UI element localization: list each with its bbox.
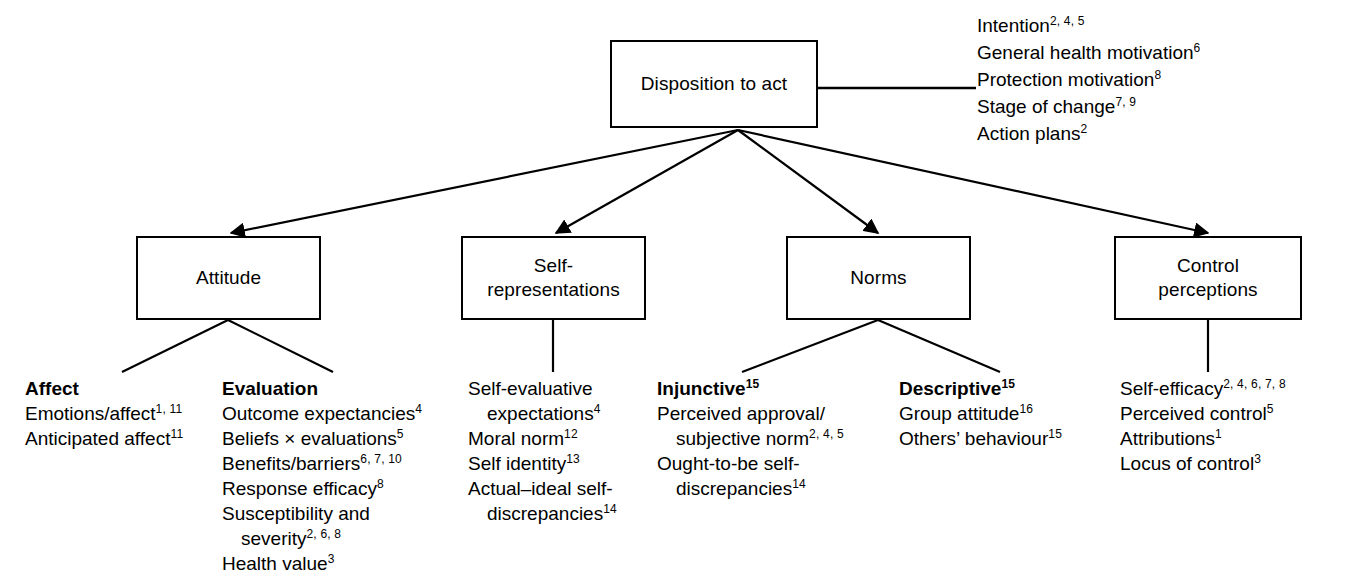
list-item-superscript: 5 (1267, 402, 1274, 416)
column-heading-superscript: 15 (1001, 377, 1015, 391)
annotation-superscript: 6 (1194, 41, 1201, 55)
list-item: Self identity13 (468, 451, 617, 476)
list-item-superscript: 11 (170, 427, 183, 441)
list-item: Perceived approval/ (657, 401, 844, 426)
list-item-text: Susceptibility and (222, 503, 370, 524)
annotation-text: General health motivation (977, 42, 1194, 63)
list-item-superscript: 1 (1215, 427, 1222, 441)
list-item-text: Self identity (468, 453, 566, 474)
list-item: Attributions1 (1120, 426, 1286, 451)
list-item-text: Perceived approval/ (657, 403, 825, 424)
list-item-superscript: 3 (328, 552, 335, 566)
list-item-superscript: 12 (564, 427, 578, 441)
column-heading-text: Affect (25, 378, 79, 399)
list-item-superscript: 15 (1048, 427, 1062, 441)
annotation-text: Protection motivation (977, 69, 1154, 90)
list-item-superscript: 14 (603, 502, 617, 516)
box-self-representations-label: Self- representations (487, 254, 619, 302)
box-disposition-to-act[interactable]: Disposition to act (610, 40, 818, 128)
arrow-to-norms (738, 130, 878, 233)
list-item-text: Self-efficacy (1120, 378, 1223, 399)
box-self-representations[interactable]: Self- representations (461, 236, 646, 320)
column-heading-text: Injunctive (657, 378, 746, 399)
annotation-item: Stage of change7, 9 (977, 93, 1200, 120)
list-item-superscript: 2, 6, 8 (306, 527, 341, 541)
list-item-text: Attributions (1120, 428, 1215, 449)
list-item-text: Benefits/barriers (222, 453, 360, 474)
box-norms[interactable]: Norms (786, 236, 971, 320)
list-item-text: subjective norm (676, 428, 809, 449)
diagram-canvas: Disposition to act Intention2, 4, 5 Gene… (0, 0, 1347, 584)
annotation-item: Action plans2 (977, 120, 1200, 147)
list-item-superscript: 2, 4, 5 (809, 427, 844, 441)
box-norms-label: Norms (850, 266, 906, 290)
list-item: Ought-to-be self- (657, 451, 844, 476)
list-item: severity2, 6, 8 (222, 526, 422, 551)
list-item-superscript: 4 (415, 402, 422, 416)
list-item-text: Actual–ideal self- (468, 478, 613, 499)
list-item: Locus of control3 (1120, 451, 1286, 476)
list-item-text: Anticipated affect (25, 428, 170, 449)
list-item-superscript: 6, 7, 10 (360, 452, 402, 466)
annotation-superscript: 7, 9 (1115, 95, 1136, 109)
list-item-text: Self-evaluative (468, 378, 593, 399)
list-item: Emotions/affect1, 11 (25, 401, 183, 426)
list-item: Health value3 (222, 551, 422, 576)
annotation-text: Action plans (977, 123, 1081, 144)
annotation-superscript: 8 (1154, 68, 1161, 82)
list-item-superscript: 8 (377, 477, 384, 491)
list-item: discrepancies14 (468, 501, 617, 526)
list-item-text: Beliefs × evaluations (222, 428, 397, 449)
list-item-superscript: 14 (792, 477, 806, 491)
column-heading: Descriptive15 (899, 376, 1062, 401)
list-item-text: Outcome expectancies (222, 403, 415, 424)
list-item-superscript: 5 (397, 427, 404, 441)
list-item: Actual–ideal self- (468, 476, 617, 501)
column-heading-text: Descriptive (899, 378, 1001, 399)
column-control-perceptions-details: Self-efficacy2, 4, 6, 7, 8 Perceived con… (1120, 376, 1286, 476)
list-item-text: discrepancies (676, 478, 792, 499)
list-item: Others’ behaviour15 (899, 426, 1062, 451)
list-item: discrepancies14 (657, 476, 844, 501)
list-item: Moral norm12 (468, 426, 617, 451)
norms-branch-left (742, 320, 878, 372)
box-disposition-to-act-label: Disposition to act (641, 72, 787, 96)
list-item: expectations4 (468, 401, 617, 426)
list-item: Beliefs × evaluations5 (222, 426, 422, 451)
annotation-superscript: 2 (1081, 122, 1088, 136)
list-item-text: Moral norm (468, 428, 564, 449)
annotation-item: Intention2, 4, 5 (977, 12, 1200, 39)
list-item-text: Emotions/affect (25, 403, 156, 424)
list-item: subjective norm2, 4, 5 (657, 426, 844, 451)
attitude-branch-left (122, 320, 228, 372)
box-attitude[interactable]: Attitude (136, 236, 321, 320)
list-item-superscript: 1, 11 (156, 402, 183, 416)
list-item-text: Health value (222, 553, 328, 574)
column-heading-superscript: 15 (746, 377, 760, 391)
box-control-perceptions[interactable]: Control perceptions (1114, 236, 1302, 320)
column-injunctive: Injunctive15 Perceived approval/ subject… (657, 376, 844, 501)
box-control-perceptions-label: Control perceptions (1158, 254, 1257, 302)
annotation-item: General health motivation6 (977, 39, 1200, 66)
arrow-to-attitude (231, 130, 738, 233)
list-item: Self-evaluative (468, 376, 617, 401)
list-item-superscript: 16 (1019, 402, 1033, 416)
list-item: Benefits/barriers6, 7, 10 (222, 451, 422, 476)
column-heading-text: Evaluation (222, 378, 318, 399)
list-item-text: expectations (487, 403, 594, 424)
list-item-text: severity (241, 528, 306, 549)
list-item: Response efficacy8 (222, 476, 422, 501)
annotation-text: Stage of change (977, 96, 1115, 117)
annotation-superscript: 2, 4, 5 (1050, 14, 1085, 28)
list-item: Susceptibility and (222, 501, 422, 526)
list-item-superscript: 13 (566, 452, 580, 466)
list-item: Group attitude16 (899, 401, 1062, 426)
list-item-text: Response efficacy (222, 478, 377, 499)
list-item-text: Group attitude (899, 403, 1019, 424)
column-heading: Injunctive15 (657, 376, 844, 401)
norms-branch-right (878, 320, 1000, 372)
column-self-representations-details: Self-evaluative expectations4 Moral norm… (468, 376, 617, 526)
list-item: Anticipated affect11 (25, 426, 183, 451)
box-attitude-label: Attitude (196, 266, 261, 290)
list-item-superscript: 3 (1254, 452, 1261, 466)
